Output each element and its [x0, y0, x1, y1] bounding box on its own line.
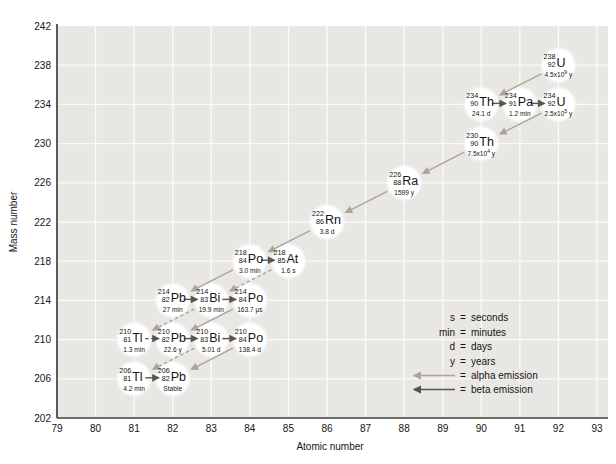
y-tick-label: 202	[34, 413, 51, 424]
element-symbol-Pb210: Pb	[171, 331, 186, 345]
atomic-number-At218: 85	[277, 256, 285, 265]
element-symbol-Pa234: Pa	[518, 95, 533, 109]
x-tick-label: 83	[206, 423, 218, 434]
element-symbol-Po218: Po	[248, 252, 263, 266]
x-axis-title: Atomic number	[296, 441, 364, 452]
half-life-Pa234: 1.2 min	[509, 110, 531, 117]
legend-unit-definition: seconds	[471, 312, 508, 323]
atomic-number-Pb210: 82	[162, 335, 170, 344]
element-symbol-At218: At	[286, 252, 298, 266]
x-tick-label: 87	[360, 423, 372, 434]
x-tick-label: 91	[514, 423, 526, 434]
legend-equals: =	[460, 341, 466, 352]
element-symbol-U238: U	[556, 56, 565, 70]
x-tick-label: 89	[437, 423, 449, 434]
legend-unit-term: s	[450, 312, 455, 323]
atomic-number-Bi214: 83	[200, 295, 208, 304]
decay-series-chart: 23892U4.5x109 y23490Th24.1 d23491Pa1.2 m…	[0, 0, 616, 464]
half-life-Bi214: 19.9 min	[199, 306, 225, 313]
legend-unit-term: min	[439, 327, 455, 338]
legend-equals: =	[460, 327, 466, 338]
atomic-number-U234: 92	[547, 99, 555, 108]
atomic-number-U238: 92	[547, 60, 555, 69]
x-tick-label: 79	[51, 423, 63, 434]
half-life-Pb206: Stable	[163, 385, 182, 392]
y-tick-label: 222	[34, 217, 51, 228]
half-life-Bi210: 5.01 d	[202, 346, 221, 353]
atomic-number-Po210: 84	[239, 335, 247, 344]
half-life-U234: 2.5x105 y	[545, 108, 573, 118]
half-life-Rn222: 3.8 d	[320, 228, 335, 235]
legend-equals: =	[460, 370, 466, 381]
half-life-Po214: 163.7 μs	[237, 306, 263, 314]
atomic-number-Po218: 84	[239, 256, 247, 265]
legend-arrow-definition: beta emission	[471, 384, 533, 395]
element-symbol-Th234: Th	[479, 95, 494, 109]
y-tick-label: 210	[34, 334, 51, 345]
y-tick-label: 226	[34, 177, 51, 188]
half-life-Tl210: 1.3 min	[123, 346, 145, 353]
half-life-Tl206: 4.2 min	[123, 385, 145, 392]
half-life-Pb210: 22.6 y	[164, 346, 183, 354]
element-symbol-Po214: Po	[248, 291, 263, 305]
element-symbol-Po210: Po	[248, 331, 263, 345]
half-life-Po218: 3.0 min	[239, 267, 261, 274]
legend-unit-term: d	[449, 341, 455, 352]
atomic-number-Bi210: 83	[200, 335, 208, 344]
x-tick-label: 90	[476, 423, 488, 434]
legend-unit-definition: years	[471, 356, 495, 367]
atomic-number-Th234: 90	[470, 99, 478, 108]
element-symbol-Bi214: Bi	[209, 291, 220, 305]
element-symbol-Pb214: Pb	[171, 291, 186, 305]
y-tick-label: 206	[34, 373, 51, 384]
element-symbol-Th230: Th	[479, 135, 494, 149]
element-symbol-U234: U	[556, 95, 565, 109]
atomic-number-Tl210: 81	[123, 335, 131, 344]
atomic-number-Rn222: 86	[316, 217, 324, 226]
half-life-Th234: 24.1 d	[472, 110, 491, 117]
x-tick-label: 88	[399, 423, 411, 434]
element-symbol-Tl210: Tl	[132, 331, 142, 345]
legend-unit-definition: days	[471, 341, 492, 352]
half-life-Po210: 138.4 d	[239, 346, 261, 353]
y-tick-label: 214	[34, 295, 51, 306]
half-life-At218: 1.6 s	[281, 267, 296, 274]
half-life-Pb214: 27 min	[163, 306, 183, 313]
x-tick-label: 84	[244, 423, 256, 434]
legend-equals: =	[460, 356, 466, 367]
y-tick-label: 242	[34, 21, 51, 32]
uranium-238-decay-series-figure: 23892U4.5x109 y23490Th24.1 d23491Pa1.2 m…	[0, 0, 616, 464]
x-tick-label: 86	[321, 423, 333, 434]
y-tick-label: 234	[34, 99, 51, 110]
legend-arrow-definition: alpha emission	[471, 370, 538, 381]
y-tick-label: 238	[34, 60, 51, 71]
half-life-Ra226: 1599 y	[394, 189, 415, 197]
atomic-number-Po214: 84	[239, 295, 247, 304]
element-symbol-Rn222: Rn	[325, 213, 341, 227]
element-symbol-Ra226: Ra	[402, 174, 418, 188]
x-tick-label: 80	[90, 423, 102, 434]
atomic-number-Th230: 90	[470, 139, 478, 148]
legend-unit-definition: minutes	[471, 327, 506, 338]
legend-equals: =	[460, 312, 466, 323]
atomic-number-Pa234: 91	[509, 99, 517, 108]
atomic-number-Ra226: 88	[393, 178, 401, 187]
x-tick-label: 81	[129, 423, 141, 434]
atomic-number-Pb206: 82	[162, 374, 170, 383]
half-life-Th230: 7.5x104 y	[467, 148, 495, 158]
x-tick-label: 92	[553, 423, 565, 434]
atomic-number-Pb214: 82	[162, 295, 170, 304]
element-symbol-Bi210: Bi	[209, 331, 220, 345]
x-tick-label: 85	[283, 423, 295, 434]
element-symbol-Tl206: Tl	[132, 370, 142, 384]
half-life-U238: 4.5x109 y	[545, 69, 573, 79]
y-axis-title: Mass number	[8, 191, 19, 252]
x-tick-label: 93	[591, 423, 603, 434]
atomic-number-Tl206: 81	[123, 374, 131, 383]
x-tick-label: 82	[167, 423, 179, 434]
element-symbol-Pb206: Pb	[171, 370, 186, 384]
legend-unit-term: y	[450, 356, 455, 367]
y-tick-label: 230	[34, 138, 51, 149]
y-tick-label: 218	[34, 256, 51, 267]
legend-equals: =	[460, 384, 466, 395]
